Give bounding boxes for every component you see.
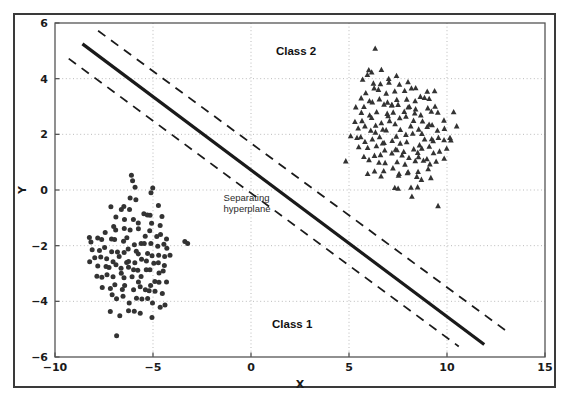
y-tick-label: 6: [40, 17, 48, 30]
y-tick-label: 4: [40, 72, 48, 85]
x-tick-label: 15: [537, 361, 552, 374]
annotation-separating-hyperplane: Separating hyperplane: [224, 192, 271, 214]
x-tick-label: −5: [145, 361, 162, 374]
x-tick-label: 10: [439, 361, 454, 374]
annotation-hyperplane-line-1: Separating: [224, 192, 271, 203]
annotation-hyperplane-line-2: hyperplane: [224, 203, 271, 214]
y-axis-title: Y: [16, 186, 29, 194]
series-class-2-points: [343, 45, 460, 208]
y-tick-label: 2: [40, 128, 48, 141]
x-tick-label: 0: [247, 361, 255, 374]
grid-lines: [55, 23, 545, 357]
x-tick-label: 5: [345, 361, 353, 374]
annotation-class-1: Class 1: [272, 318, 312, 330]
y-tick-label: 0: [40, 184, 48, 197]
x-axis-title: X: [296, 378, 304, 391]
y-tick-label: −4: [31, 295, 48, 308]
annotation-class-2: Class 2: [276, 45, 316, 57]
y-tick-label: −6: [31, 351, 48, 364]
scatter-plot-canvas: [0, 0, 569, 401]
series-class-1-points: [87, 173, 190, 338]
figure-root: −10−5051015−6−4−20246 X Y Class 2 Class …: [0, 0, 569, 401]
y-tick-label: −2: [31, 239, 48, 252]
